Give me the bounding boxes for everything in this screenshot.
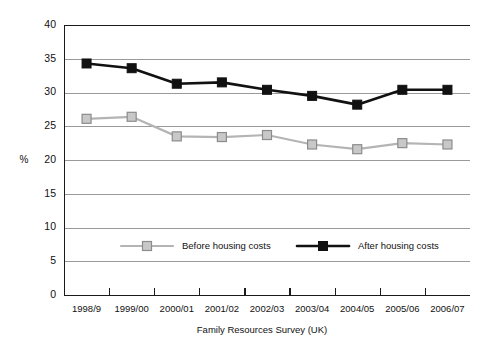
legend-item-after-housing-costs[interactable]: After housing costs	[297, 240, 439, 251]
y-axis-tick-labels: 0510152025303540	[44, 18, 56, 300]
y-tick-label: 10	[44, 220, 56, 232]
y-tick-label: 35	[44, 52, 56, 64]
y-tick-label: 40	[44, 18, 56, 30]
legend-label: After housing costs	[358, 240, 439, 251]
legend-marker-swatch	[319, 242, 328, 251]
legend-marker-swatch	[143, 242, 152, 251]
data-point-marker	[127, 64, 136, 73]
series-after-housing-costs	[82, 59, 452, 109]
data-point-marker	[82, 59, 91, 68]
data-point-marker	[353, 100, 362, 109]
data-point-marker	[172, 79, 181, 88]
data-point-marker	[353, 145, 362, 154]
line-chart: 0510152025303540 1998/91999/002000/01200…	[0, 0, 494, 353]
legend-item-before-housing-costs[interactable]: Before housing costs	[121, 240, 271, 251]
data-point-marker	[82, 114, 91, 123]
y-tick-label: 5	[50, 254, 56, 266]
data-point-marker	[263, 131, 272, 140]
data-point-marker	[217, 133, 226, 142]
data-point-marker	[398, 139, 407, 148]
y-tick-label: 25	[44, 119, 56, 131]
x-axis-title: Family Resources Survey (UK)	[197, 324, 327, 335]
data-point-marker	[263, 85, 272, 94]
data-point-marker	[217, 78, 226, 87]
x-tick-label: 2006/07	[430, 303, 464, 314]
x-tick-label: 2004/05	[340, 303, 374, 314]
series-before-housing-costs	[82, 112, 452, 153]
y-tick-label: 0	[50, 288, 56, 300]
x-tick-label: 2003/04	[295, 303, 329, 314]
series-line	[87, 63, 448, 104]
x-tick-label: 2005/06	[385, 303, 419, 314]
data-point-marker	[308, 91, 317, 100]
x-tick-label: 2001/02	[205, 303, 239, 314]
y-tick-label: 15	[44, 187, 56, 199]
x-tick-label: 2002/03	[250, 303, 284, 314]
chart-container: 0510152025303540 1998/91999/002000/01200…	[0, 0, 494, 353]
x-tick-label: 1999/00	[114, 303, 148, 314]
y-tick-label: 30	[44, 85, 56, 97]
data-point-marker	[308, 140, 317, 149]
data-point-marker	[398, 85, 407, 94]
x-axis-tick-labels: 1998/91999/002000/012001/022002/032003/0…	[72, 303, 465, 314]
data-point-marker	[443, 85, 452, 94]
data-point-marker	[127, 112, 136, 121]
x-axis-tick-marks	[110, 288, 426, 295]
y-tick-label: 20	[44, 153, 56, 165]
data-series-layer	[82, 59, 452, 154]
data-point-marker	[443, 140, 452, 149]
x-tick-label: 2000/01	[160, 303, 194, 314]
x-tick-label: 1998/9	[72, 303, 101, 314]
data-point-marker	[172, 132, 181, 141]
chart-legend: Before housing costsAfter housing costs	[121, 240, 439, 251]
legend-label: Before housing costs	[182, 240, 271, 251]
y-axis-title: %	[20, 154, 29, 165]
